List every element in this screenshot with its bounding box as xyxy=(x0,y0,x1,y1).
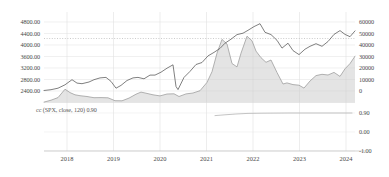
legend-indicator-label[interactable]: cc (SPX, close, 120) 0.90 xyxy=(36,107,97,113)
chart-container: 4800.00 4400.00 4000.00 3600.00 3200.00 … xyxy=(0,0,389,177)
y-left-tick-6: 2400.00 xyxy=(2,87,40,94)
y-left-tick-4: 3200.00 xyxy=(2,64,40,71)
y-right-tick-3: 30000 xyxy=(359,53,374,60)
y-right-tick-0: 60000 xyxy=(359,18,374,25)
y-right-lower-tick-2: -1.00 xyxy=(359,147,371,154)
y-left-tick-0: 4800.00 xyxy=(2,18,40,25)
y-right-tick-6: 0 xyxy=(359,87,362,94)
x-tick-2019: 2019 xyxy=(101,155,127,162)
x-tick-2020: 2020 xyxy=(147,155,173,162)
y-left-tick-1: 4400.00 xyxy=(2,30,40,37)
y-right-tick-1: 50000 xyxy=(359,30,374,37)
x-tick-2018: 2018 xyxy=(54,155,80,162)
x-tick-2021: 2021 xyxy=(194,155,220,162)
y-right-tick-5: 10000 xyxy=(359,76,374,83)
x-tick-2024: 2024 xyxy=(333,155,359,162)
y-right-tick-4: 20000 xyxy=(359,64,374,71)
gridlines-lower-panel xyxy=(44,113,355,151)
series-line-correlation xyxy=(215,113,352,116)
y-left-tick-2: 4000.00 xyxy=(2,41,40,48)
series-area-btc xyxy=(44,36,355,102)
y-right-tick-2: 40000 xyxy=(359,41,374,48)
x-tick-2022: 2022 xyxy=(240,155,266,162)
gridlines-vertical xyxy=(67,12,346,151)
y-right-lower-tick-1: 0.00 xyxy=(359,128,369,135)
x-tick-2023: 2023 xyxy=(287,155,313,162)
chart-plot-area xyxy=(0,0,389,177)
y-left-tick-3: 3600.00 xyxy=(2,53,40,60)
y-left-tick-5: 2800.00 xyxy=(2,76,40,83)
y-right-lower-tick-0: 0.90 xyxy=(359,109,369,116)
